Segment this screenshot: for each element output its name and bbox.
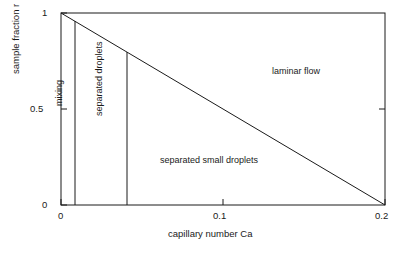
region-label-mixing: mixing bbox=[54, 80, 64, 106]
xtick-label-0point2: 0.2 bbox=[375, 210, 388, 221]
ytick-label-1: 1 bbox=[42, 7, 47, 18]
region-label-separated-droplets: separated droplets bbox=[94, 41, 104, 116]
region-label-separated-small-droplets: separated small droplets bbox=[160, 155, 258, 165]
ytick-label-0point5: 0.5 bbox=[30, 103, 43, 114]
region-label-laminar-flow: laminar flow bbox=[272, 66, 320, 76]
y-axis-title: sample fraction r bbox=[10, 4, 21, 74]
phase-diagram-figure: 1 0.5 0 0 0.1 0.2 capillary number Ca sa… bbox=[0, 0, 407, 253]
phase-boundary-line bbox=[61, 13, 385, 205]
ytick-label-0: 0 bbox=[42, 199, 47, 210]
x-axis-title: capillary number Ca bbox=[168, 228, 252, 239]
xtick-label-0: 0 bbox=[58, 210, 63, 221]
xtick-label-0point1: 0.1 bbox=[213, 210, 226, 221]
